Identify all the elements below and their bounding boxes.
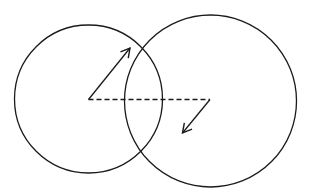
- two-circles-diagram: [0, 0, 310, 192]
- right-circle: [125, 15, 297, 187]
- radius-arrow-right: [183, 100, 211, 134]
- radius-arrow-left: [89, 48, 131, 100]
